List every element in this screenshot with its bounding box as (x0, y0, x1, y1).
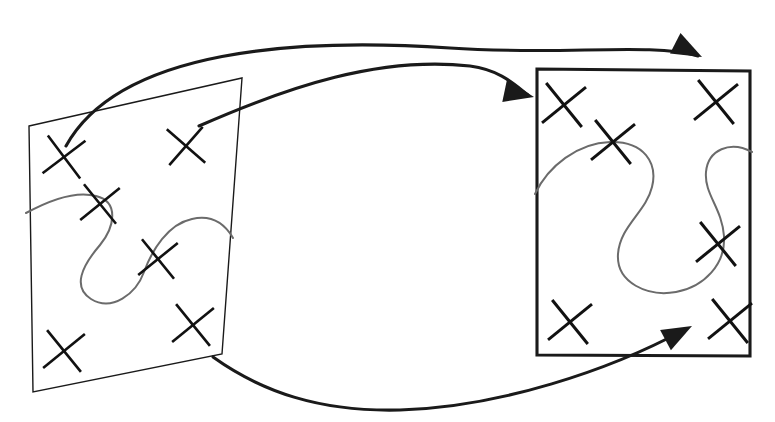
mark-r2 (694, 80, 738, 124)
bottom-map-arrow-curve (213, 330, 684, 410)
right-patch-group (535, 69, 752, 356)
mark-l3 (80, 184, 120, 224)
mark-l1 (43, 136, 86, 179)
mark-r4-stroke (696, 222, 740, 266)
mark-r3 (591, 120, 635, 164)
mark-l2 (167, 127, 205, 165)
mark-l2-stroke (167, 127, 205, 165)
diagram-canvas (0, 0, 775, 422)
mark-r6-stroke (708, 299, 752, 343)
top-map-arrow-head (670, 33, 702, 57)
map-arrows-group (66, 33, 702, 410)
mark-r5 (548, 300, 592, 344)
right-embedded-curve (535, 142, 752, 293)
left-patch-group (26, 78, 242, 392)
second-map-arrow-head (502, 80, 534, 103)
bottom-map-arrow-head (660, 326, 692, 350)
bottom-map-arrow (213, 326, 692, 410)
mark-r4 (696, 222, 740, 266)
mark-l6-stroke (172, 304, 214, 346)
diagram-stage (0, 0, 775, 422)
second-map-arrow-curve (199, 64, 528, 126)
mark-r1-stroke (542, 83, 586, 127)
second-map-arrow (199, 64, 534, 126)
mark-l5-stroke (43, 330, 85, 372)
mark-r6 (708, 299, 752, 343)
left-embedded-curve (26, 194, 233, 303)
mark-r5-stroke (548, 300, 592, 344)
mark-l3-stroke (80, 184, 120, 224)
mark-l5 (43, 330, 85, 372)
left-marked-points (43, 127, 214, 372)
mark-l1-stroke (43, 136, 86, 179)
right-marked-points (542, 80, 752, 344)
mark-r3-stroke (591, 120, 635, 164)
mark-r1 (542, 83, 586, 127)
mark-l6 (172, 304, 214, 346)
mark-r2-stroke (694, 80, 738, 124)
top-map-arrow (66, 33, 702, 146)
